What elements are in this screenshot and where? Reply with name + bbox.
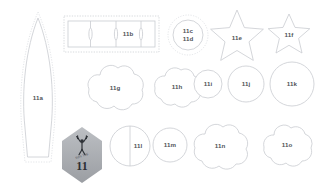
pattern-piece-11n[interactable]: 11n (186, 120, 254, 170)
pattern-piece-11m[interactable]: 11m (151, 126, 189, 164)
pattern-piece-11g[interactable]: 11g (80, 62, 150, 110)
pattern-piece-11l[interactable]: 11l (108, 124, 152, 168)
pattern-sheet: 11a 11b 11c 11d 11e 11f (0, 0, 322, 196)
pattern-piece-11c-11d[interactable]: 11c 11d (166, 13, 210, 57)
badge-number: 11 (60, 159, 104, 174)
pattern-number-badge[interactable]: SOFTIE 11 (60, 126, 104, 184)
pattern-piece-11k[interactable]: 11k (268, 60, 316, 108)
pattern-piece-11o[interactable]: 11o (256, 122, 318, 168)
pattern-piece-11f[interactable]: 11f (266, 12, 312, 56)
pattern-piece-11j[interactable]: 11j (226, 64, 266, 104)
pattern-piece-11a[interactable]: 11a (14, 10, 62, 170)
pattern-piece-11i[interactable]: 11i (192, 68, 224, 100)
pattern-piece-11e[interactable]: 11e (208, 8, 266, 62)
pattern-piece-11b[interactable]: 11b (63, 15, 160, 53)
